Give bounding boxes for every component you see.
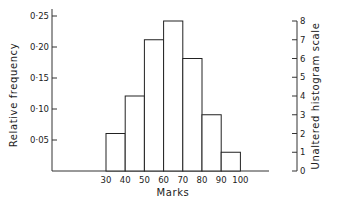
y2-tick-label: 4	[300, 91, 305, 101]
y-axis-label: Relative frequency	[8, 43, 19, 147]
histogram-bar	[144, 40, 163, 171]
x-tick-label: 30	[101, 175, 112, 185]
x-axis-label: Marks	[157, 187, 190, 198]
histogram-bar	[106, 134, 125, 172]
y-tick-label: 0·05	[30, 135, 49, 145]
y2-tick-label: 0	[300, 166, 305, 176]
y-tick-label: 0·10	[30, 104, 49, 114]
histogram-bar	[125, 96, 144, 171]
y-tick-label: 0·20	[30, 42, 49, 52]
y2-tick-label: 3	[300, 110, 305, 120]
x-tick-label: 100	[232, 175, 248, 185]
y2-axis-label: Unaltered histogram scale	[310, 23, 321, 170]
x-tick-label: 50	[139, 175, 150, 185]
y2-tick-label: 5	[300, 72, 305, 82]
histogram-bar	[221, 152, 240, 171]
y2-tick-label: 2	[300, 129, 305, 139]
y-ticks-left: 0·050·100·150·200·25	[30, 11, 57, 145]
histogram-bar	[202, 115, 221, 171]
histogram-bar	[164, 21, 183, 171]
x-tick-label: 80	[197, 175, 208, 185]
y-ticks-right: 012345678	[292, 16, 305, 176]
x-tick-label: 60	[158, 175, 169, 185]
y2-tick-label: 8	[300, 16, 305, 26]
x-tick-label: 70	[177, 175, 188, 185]
histogram-bar	[183, 59, 202, 172]
y2-tick-label: 7	[300, 35, 305, 45]
x-ticks: 30405060708090100	[101, 175, 249, 185]
bars	[106, 21, 240, 171]
y2-tick-label: 1	[300, 147, 305, 157]
histogram-chart: 0·050·100·150·200·25 012345678 304050607…	[0, 0, 337, 204]
x-tick-label: 90	[216, 175, 227, 185]
y-tick-label: 0·15	[30, 73, 49, 83]
x-tick-label: 40	[120, 175, 131, 185]
y2-tick-label: 6	[300, 54, 305, 64]
y-tick-label: 0·25	[30, 11, 49, 21]
